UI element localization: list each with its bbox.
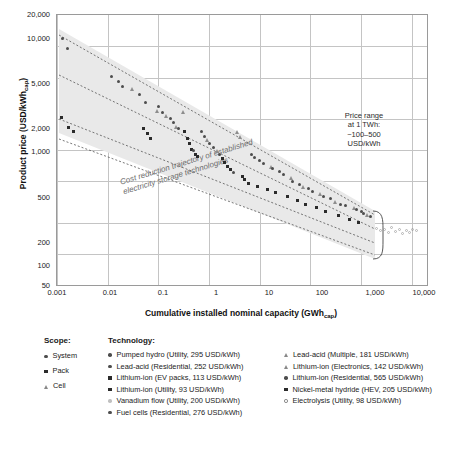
square-marker-icon [44, 370, 48, 374]
legend-technology-item: Electrolysis (Utility, 98 USD/kWh) [284, 397, 444, 406]
legend-technology-label: Fuel cells (Residential, 276 USD/kWh) [117, 409, 243, 418]
x-tick-100: 100 [316, 288, 329, 297]
legend-technology-label: Nickel-metal hydride (HEV, 205 USD/kWh) [293, 386, 432, 395]
data-point [387, 231, 390, 234]
legend-technology-label: Lead-acid (Residential, 252 USD/kWh) [117, 363, 244, 372]
data-point [142, 127, 145, 130]
data-point [383, 228, 386, 231]
data-point [258, 159, 261, 162]
data-point [196, 155, 199, 158]
legend-technology-label: Lithium-ion (Residential, 565 USD/kWh) [293, 374, 424, 383]
y-tick-50: 50 [0, 281, 50, 290]
x-tick-1000: 1,000 [366, 288, 385, 297]
legend-scope-header: Scope: [44, 336, 102, 345]
data-point [238, 135, 242, 139]
data-point [66, 47, 69, 50]
legend-technology-label: Electrolysis (Utility, 98 USD/kWh) [293, 397, 402, 406]
legend-scope-label: Pack [53, 366, 69, 375]
data-point [200, 130, 203, 133]
circle-marker-icon [44, 355, 48, 359]
y-tick-10000: 10,000 [0, 34, 50, 43]
legend-technology-label: Lithium-ion (EV packs, 113 USD/kWh) [117, 374, 242, 383]
data-point [304, 203, 307, 206]
data-point [223, 161, 226, 164]
legend-technology-label: Pumped hydro (Utility, 295 USD/kWh) [117, 351, 241, 360]
legend-technology-item: Lithium-ion (Electronics, 142 USD/kWh) [284, 363, 444, 372]
y-tick-5000: 5,000 [0, 79, 50, 88]
data-point [60, 116, 63, 119]
y-tick-2000: 2,000 [0, 124, 50, 133]
plot-area: Cost reduction trajectory of established… [56, 14, 428, 286]
y-tick-100: 100 [0, 261, 50, 270]
data-point [324, 210, 327, 213]
data-point [208, 142, 211, 145]
data-point [144, 101, 147, 104]
data-point [369, 215, 372, 218]
data-point [266, 188, 269, 191]
circle-marker-icon [108, 353, 112, 357]
legend-scope-item-cell: Cell [44, 381, 102, 390]
x-tick-0-1: 0.1 [158, 288, 168, 297]
square-marker-icon [284, 388, 288, 392]
x-tick-0-01: 0.01 [103, 288, 118, 297]
data-point [256, 185, 259, 188]
circle-light-marker-icon [108, 399, 112, 403]
x-tick-10000: 10,000 [413, 288, 436, 297]
triangle-marker-icon [284, 353, 288, 357]
legend-technology-item: Lithium-ion (Residential, 565 USD/kWh) [284, 374, 444, 383]
legend-technology-item: Lead-acid (Residential, 252 USD/kWh) [108, 363, 284, 372]
x-axis-title-text: Cumulative installed nominal capacity (G… [145, 308, 324, 318]
x-axis-title-sub: cap [324, 313, 334, 319]
data-point [186, 137, 189, 140]
data-point [169, 117, 172, 120]
price-range-annotation: Price range at 1 TWh: ~100–500 USD/kWh [319, 111, 409, 149]
data-point [155, 109, 159, 113]
scatter-chart: Product price (USD/kWhcap) 20,000 10,000… [0, 0, 449, 330]
y-tick-500: 500 [0, 193, 50, 202]
legend-technology-label: Lithium-ion (Electronics, 142 USD/kWh) [293, 363, 423, 372]
triangle-marker-icon [284, 365, 288, 369]
data-point [322, 195, 325, 198]
legend-technology-label: Lithium-ion (Utility, 93 USD/kWh) [117, 386, 224, 395]
data-point [375, 227, 378, 230]
data-point [247, 182, 250, 185]
data-point [67, 126, 70, 129]
x-tick-0-001: 0.001 [48, 288, 67, 297]
legend-technology-item: Vanadium flow (Utility, 200 USD/kWh) [108, 397, 284, 406]
data-point [301, 185, 305, 189]
y-tick-200: 200 [0, 238, 50, 247]
data-point [362, 212, 365, 215]
legend-scope-label: Cell [53, 381, 66, 390]
legend-technology-item: Lithium-ion (EV packs, 113 USD/kWh) [108, 374, 284, 383]
data-point [286, 195, 289, 198]
data-point [333, 200, 337, 204]
data-point [348, 218, 351, 221]
ring-marker-icon [284, 399, 288, 403]
legend-technology-items: Pumped hydro (Utility, 295 USD/kWh)Lead-… [108, 351, 444, 417]
data-point [164, 114, 168, 118]
data-point [172, 121, 175, 124]
y-tick-20000: 20,000 [0, 10, 50, 19]
legend-technology-item: Fuel cells (Residential, 276 USD/kWh) [108, 409, 284, 418]
data-point [311, 190, 314, 193]
data-point [307, 187, 310, 190]
data-point [117, 80, 120, 83]
data-point [394, 230, 397, 233]
data-point [146, 132, 149, 135]
triangle-marker-icon [44, 385, 48, 389]
data-point [243, 178, 246, 181]
legend-technology-header: Technology: [108, 336, 444, 345]
data-point [357, 221, 360, 224]
legend-technology-label: Lead-acid (Multiple, 181 USD/kWh) [293, 351, 409, 360]
circle-marker-icon [108, 365, 112, 369]
legend-scope-item-pack: Pack [44, 366, 102, 375]
data-point [379, 229, 382, 232]
data-point [315, 206, 318, 209]
square-marker-icon [108, 376, 112, 380]
circle-marker-icon [284, 376, 288, 380]
chart-legend: Scope: System Pack Cell Technology: Pump… [0, 336, 449, 455]
x-axis-title: Cumulative installed nominal capacity (G… [56, 308, 426, 319]
data-point [408, 231, 411, 234]
data-point [274, 191, 277, 194]
x-tick-1: 1 [214, 288, 218, 297]
